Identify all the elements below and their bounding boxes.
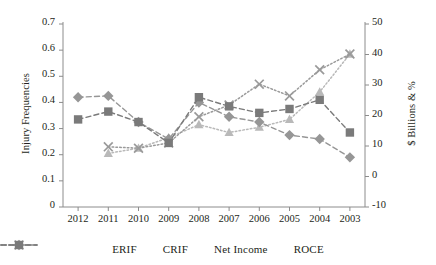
data-point-marker	[195, 93, 203, 101]
legend-label: ERIF	[112, 243, 137, 255]
data-point-marker	[165, 139, 173, 147]
data-point-marker	[346, 128, 354, 136]
series-roce	[74, 93, 354, 147]
data-point-marker	[255, 109, 263, 117]
data-point-marker	[255, 80, 264, 89]
data-point-marker	[104, 107, 112, 115]
legend-key-square-icon	[0, 238, 38, 252]
data-point-marker	[284, 130, 294, 140]
data-point-marker	[224, 112, 234, 122]
data-point-marker	[74, 115, 82, 123]
data-point-marker	[345, 152, 355, 162]
plot-area	[0, 0, 436, 265]
legend-label: ROCE	[294, 243, 324, 255]
legend-item-net-income[interactable]: Net Income	[214, 243, 268, 255]
data-point-marker	[285, 91, 294, 100]
legend-label: CRIF	[163, 243, 188, 255]
data-point-marker	[225, 102, 233, 110]
data-point-marker	[134, 118, 142, 126]
chart-legend: ERIFCRIFNet IncomeROCE	[0, 238, 436, 260]
chart-container: Injury Frequencies $ Billions & % 00.10.…	[0, 0, 436, 265]
legend-item-erif[interactable]: ERIF	[112, 243, 137, 255]
legend-label: Net Income	[214, 243, 268, 255]
data-point-marker	[73, 92, 83, 102]
data-point-marker	[316, 96, 324, 104]
data-point-marker	[315, 87, 324, 95]
legend-item-roce[interactable]: ROCE	[294, 243, 324, 255]
legend-item-crif[interactable]: CRIF	[163, 243, 188, 255]
data-point-marker	[315, 65, 324, 74]
data-point-marker	[315, 134, 325, 144]
data-point-marker	[285, 105, 293, 113]
data-point-marker	[15, 241, 23, 249]
